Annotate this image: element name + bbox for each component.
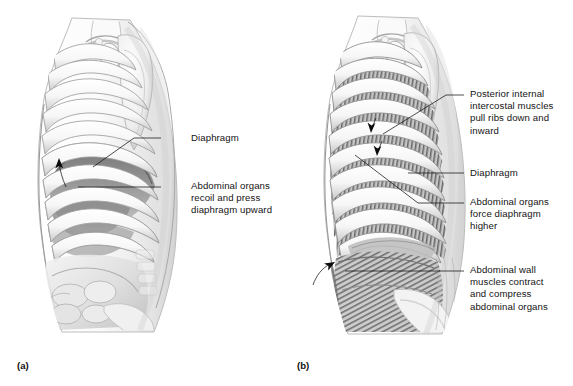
caption-panel-b: (b) <box>297 360 309 371</box>
label-abdominal-wall-b: Abdominal wall muscles contract and comp… <box>470 264 548 313</box>
panel-b-annotation-layer <box>286 0 573 386</box>
abdominal-recoil-arrow-a <box>55 158 66 187</box>
abdominal-wall-compress-arrow-b <box>313 262 335 285</box>
leader-posterior-intercostal-b <box>383 95 464 134</box>
label-abdominal-organs-force-b: Abdominal organs force diaphragm higher <box>470 196 549 233</box>
intercostal-arrow-upper-b <box>368 118 376 133</box>
leader-diaphragm-a <box>93 138 161 167</box>
intercostal-arrow-lower-b <box>374 141 382 156</box>
panel-b <box>286 0 573 386</box>
leader-abdominal-organs-force-b <box>355 155 464 203</box>
caption-panel-a: (a) <box>17 360 29 371</box>
figure-forced-expiration: Diaphragm Abdominal organs recoil and pr… <box>0 0 573 386</box>
label-diaphragm-b: Diaphragm <box>470 167 518 179</box>
label-posterior-intercostal-b: Posterior internal intercostal muscles p… <box>470 88 553 137</box>
label-abdominal-organs-recoil-a: Abdominal organs recoil and press diaphr… <box>191 180 272 217</box>
label-diaphragm-a: Diaphragm <box>191 132 239 144</box>
